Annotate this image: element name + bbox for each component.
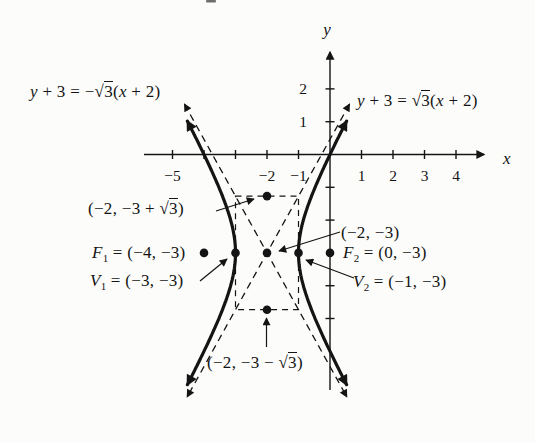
pointer-center [279, 232, 340, 251]
eq-left-end: + 2) [127, 82, 161, 101]
y-tick-label: 1 [299, 113, 307, 130]
pt-top-radicand: 3 [169, 198, 178, 218]
pt-bottom-pre: (−2, −3 − √ [207, 353, 288, 372]
x-axis-label: x [502, 149, 511, 168]
eq-left-var-y: y [30, 82, 38, 101]
f1-coords: = (−4, −3) [108, 243, 185, 262]
pt-bottom-radicand: 3 [288, 352, 297, 372]
label-bottom-conjugate-point: (−2, −3 − √3) [207, 352, 303, 373]
point-dot [326, 249, 335, 258]
eq-right-end: + 2) [444, 91, 478, 110]
point-dot [263, 249, 272, 258]
pt-bottom-post: ) [297, 353, 303, 372]
x-tick-label: −1 [290, 167, 307, 184]
asymptote-equation-positive: y + 3 = √3(x + 2) [357, 90, 478, 111]
x-tick-label: 1 [358, 167, 366, 184]
pointer-vertex-1 [200, 259, 227, 281]
v1-letter: V [90, 271, 101, 290]
x-tick-label: 4 [452, 167, 460, 184]
v1-coords: = (−3, −3) [106, 271, 183, 290]
y-tick-label: 2 [299, 80, 307, 97]
label-focus-1: F1 = (−4, −3) [92, 242, 186, 266]
label-top-conjugate-point: (−2, −3 + √3) [88, 198, 184, 219]
center-coords: (−2, −3) [341, 223, 399, 242]
hyperbola-right-branch [299, 121, 347, 385]
eq-left-var-x: x [119, 82, 127, 101]
eq-right-radicand: 3 [421, 90, 430, 110]
hyperbola-left-branch [187, 121, 235, 385]
scan-artifact [206, 0, 216, 3]
point-dot [263, 192, 272, 201]
point-dot [263, 305, 272, 314]
point-dot [231, 249, 240, 258]
label-vertex-1: V1 = (−3, −3) [90, 270, 184, 294]
label-center-point: (−2, −3) [341, 222, 399, 243]
point-dot [200, 249, 209, 258]
hyperbola-figure: −5−2−1123421 x y y + 3 = −√3(x + 2) y + … [0, 0, 535, 443]
pt-top-post: ) [178, 199, 184, 218]
v2-letter: V [353, 272, 364, 291]
eq-right-var-y: y [357, 91, 365, 110]
eq-right-mid: + 3 = √ [365, 91, 421, 110]
eq-left-mid: + 3 = −√ [38, 82, 104, 101]
eq-left-radicand: 3 [104, 81, 113, 101]
f2-letter: F [343, 243, 354, 262]
label-focus-2: F2 = (0, −3) [343, 242, 427, 266]
x-tick-label: 3 [421, 167, 429, 184]
y-axis-label: y [321, 20, 331, 39]
plot-layer: −5−2−1123421 [164, 80, 460, 397]
eq-right-var-x: x [436, 91, 444, 110]
asymptote-equation-negative: y + 3 = −√3(x + 2) [30, 81, 161, 102]
x-tick-label: 2 [389, 167, 397, 184]
pointer-top-point [216, 199, 254, 211]
v2-coords: = (−1, −3) [369, 272, 446, 291]
x-tick-label: −2 [259, 167, 276, 184]
label-vertex-2: V2 = (−1, −3) [353, 271, 447, 295]
figure-canvas: −5−2−1123421 x y [0, 0, 535, 443]
leader-lines [200, 199, 354, 347]
f1-letter: F [92, 243, 103, 262]
x-tick-label: −5 [164, 167, 181, 184]
f2-coords: = (0, −3) [359, 243, 427, 262]
pt-top-pre: (−2, −3 + √ [88, 199, 169, 218]
point-dot [294, 249, 303, 258]
